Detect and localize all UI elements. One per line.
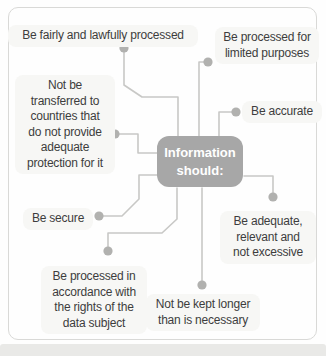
node-not-kept-longer: Not be kept longer than is necessary — [146, 294, 260, 331]
node-limited-purposes: Be processed for limited purposes — [215, 27, 319, 64]
dot-accurate — [231, 107, 240, 116]
node-rights-data-subject: Be processed in accordance with the righ… — [41, 266, 147, 334]
connector-secure — [99, 175, 159, 216]
node-accurate: Be accurate — [242, 101, 322, 123]
center-box-label: Information should: — [164, 144, 236, 180]
node-fairly-lawfully: Be fairly and lawfully processed — [8, 25, 198, 47]
dot-rights-data-subject — [103, 246, 112, 255]
dot-adequate-relevant — [268, 192, 277, 201]
connector-not-transferred — [115, 134, 159, 153]
dot-not-kept-longer — [197, 280, 206, 289]
center-box: Information should: — [157, 136, 243, 187]
connector-fairly-lawfully — [124, 48, 178, 137]
node-not-transferred: Not be transferred to countries that do … — [15, 75, 115, 174]
connector-limited-purposes — [199, 62, 208, 137]
bottom-band — [0, 344, 326, 356]
connector-adequate-relevant — [244, 176, 273, 197]
dot-limited-purposes — [203, 57, 212, 66]
node-adequate-relevant: Be adequate, relevant and not excessive — [220, 211, 316, 264]
dot-secure — [94, 211, 103, 220]
figure-canvas: Be fairly and lawfully processed Be proc… — [0, 0, 326, 356]
connector-rights-data-subject — [108, 188, 177, 251]
node-secure: Be secure — [23, 208, 93, 230]
